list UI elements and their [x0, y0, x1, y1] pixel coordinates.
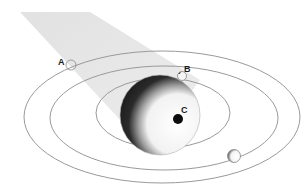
central-sphere [120, 75, 200, 155]
label-b: B [184, 64, 191, 74]
label-a: A [58, 57, 65, 67]
orbit-diagram: A B C [0, 0, 306, 195]
spot-c [173, 114, 183, 124]
moon-bottom [228, 150, 241, 163]
label-c: C [181, 105, 188, 115]
